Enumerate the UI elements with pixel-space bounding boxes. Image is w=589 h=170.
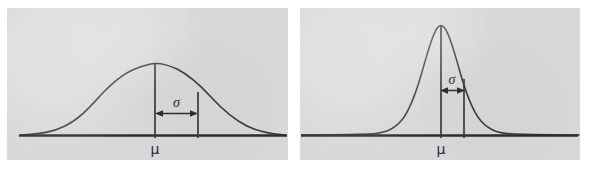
distribution-panel-left: σ μ — [7, 8, 288, 160]
left-sigma-arrow-head-start — [155, 110, 163, 116]
right-sigma-label: σ — [449, 72, 457, 87]
left-sigma-arrow-head-end — [190, 110, 198, 116]
right-normal-curve-chart: σ μ — [300, 8, 580, 160]
right-sigma-arrow — [440, 87, 465, 93]
left-sigma-arrow — [155, 110, 198, 116]
left-sigma-label: σ — [173, 95, 181, 110]
left-mean-label: μ — [151, 141, 160, 157]
figure-root: σ μ σ μ — [0, 0, 589, 170]
right-mean-label: μ — [437, 141, 446, 157]
left-gaussian-curve — [21, 63, 285, 135]
distribution-panel-right: σ μ — [300, 8, 580, 160]
left-normal-curve-chart: σ μ — [7, 8, 288, 160]
